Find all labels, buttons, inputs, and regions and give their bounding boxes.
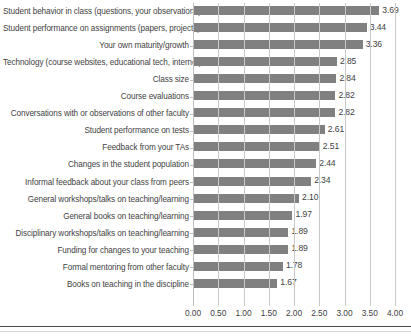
category-tick-mark	[190, 148, 193, 149]
gridline	[345, 3, 346, 306]
category-tick-mark	[190, 284, 193, 285]
bar	[193, 57, 337, 66]
gridline	[218, 3, 219, 306]
bar-value-label: 2.85	[340, 54, 356, 69]
category-label: Informal feedback about your class from …	[3, 174, 189, 191]
bar	[193, 91, 335, 100]
bar	[193, 142, 320, 151]
bar	[193, 159, 316, 168]
bar	[193, 228, 288, 237]
category-label: General books on teaching/learning	[3, 208, 189, 225]
bar-value-label: 3.36	[366, 37, 382, 52]
category-tick-mark	[190, 182, 193, 183]
plot-area: 3.693.443.362.852.842.822.822.612.512.44…	[193, 3, 395, 306]
category-label: General workshops/talks on teaching/lear…	[3, 191, 189, 208]
x-tick-label: 3.50	[362, 307, 378, 319]
bottom-rule-secondary	[0, 331, 411, 332]
x-tick-label: 4.00	[387, 307, 403, 319]
category-label: Books on teaching in the discipline	[3, 276, 189, 293]
x-tick-label: 0.50	[210, 307, 226, 319]
category-tick-mark	[190, 165, 193, 166]
bar-value-label: 2.84	[339, 71, 355, 86]
category-tick-mark	[190, 46, 193, 47]
category-label: Student performance on assignments (pape…	[3, 20, 189, 37]
category-label: Technology (course websites, educational…	[3, 54, 189, 71]
gridline	[294, 3, 295, 306]
x-tick-label: 1.00	[236, 307, 252, 319]
category-label: Feedback from your TAs	[3, 139, 189, 156]
bar	[193, 125, 325, 134]
x-axis-tick-labels: 0.000.501.001.502.002.503.003.504.00	[193, 307, 395, 321]
category-label: Funding for changes to your teaching	[3, 242, 189, 259]
x-tick-label: 2.00	[286, 307, 302, 319]
category-label: Student behavior in class (questions, yo…	[3, 3, 189, 20]
category-label: Class size	[3, 71, 189, 88]
bar-value-label: 2.10	[302, 190, 318, 205]
category-label: Conversations with or observations of ot…	[3, 105, 189, 122]
bar-chart: Student behavior in class (questions, yo…	[0, 0, 411, 336]
bar-value-label: 2.82	[338, 105, 354, 120]
bar-value-label: 2.51	[323, 139, 339, 154]
category-tick-mark	[190, 131, 193, 132]
gridline	[269, 3, 270, 306]
category-tick-mark	[190, 80, 193, 81]
bar	[193, 108, 335, 117]
bar	[193, 194, 299, 203]
bar	[193, 6, 379, 15]
bar-value-label: 2.44	[319, 156, 335, 171]
bar-value-label: 2.82	[338, 88, 354, 103]
category-tick-mark	[190, 199, 193, 200]
category-label: Your own maturity/growth	[3, 37, 189, 54]
category-tick-mark	[190, 97, 193, 98]
bottom-rule	[0, 326, 411, 327]
category-label: Disciplinary workshops/talks on teaching…	[3, 225, 189, 242]
category-tick-mark	[190, 63, 193, 64]
category-tick-mark	[190, 233, 193, 234]
bar-value-label: 2.61	[328, 122, 344, 137]
category-label: Changes in the student population	[3, 156, 189, 173]
x-tick-label: 3.00	[337, 307, 353, 319]
gridline	[244, 3, 245, 306]
gridline	[370, 3, 371, 306]
x-tick-label: 1.50	[261, 307, 277, 319]
category-axis-labels: Student behavior in class (questions, yo…	[0, 3, 189, 306]
gridline	[319, 3, 320, 306]
category-tick-mark	[190, 250, 193, 251]
category-tick-mark	[190, 29, 193, 30]
bar-value-label: 3.69	[382, 3, 398, 18]
category-label: Student performance on tests	[3, 122, 189, 139]
bar	[193, 74, 336, 83]
bar	[193, 279, 277, 288]
category-tick-mark	[190, 12, 193, 13]
category-label: Formal mentoring from other faculty	[3, 259, 189, 276]
gridline	[193, 3, 194, 306]
bar-value-label: 2.34	[314, 173, 330, 188]
category-tick-mark	[190, 114, 193, 115]
category-label: Course evaluations	[3, 88, 189, 105]
x-tick-label: 2.50	[311, 307, 327, 319]
category-tick-mark	[190, 267, 193, 268]
bar-value-label: 1.97	[295, 207, 311, 222]
category-tick-mark	[190, 216, 193, 217]
gridline	[395, 3, 396, 306]
x-tick-label: 0.00	[185, 307, 201, 319]
bar-value-label: 3.44	[370, 20, 386, 35]
bar	[193, 245, 288, 254]
